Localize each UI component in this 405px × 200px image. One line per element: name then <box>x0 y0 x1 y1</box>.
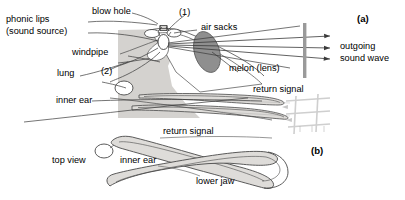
label-phonic-lips: phonic lips (sound source) <box>6 14 67 37</box>
label-return-signal-b: return signal <box>163 126 214 137</box>
label-outgoing-sound-wave: outgoing sound wave <box>340 41 389 64</box>
return-grid-vline-2 <box>316 94 318 132</box>
ray-arrowhead-2 <box>324 46 330 50</box>
inner-ear-circle-b <box>95 144 113 158</box>
return-arrowhead-1 <box>282 105 288 109</box>
label-marker-two: (2) <box>101 66 112 77</box>
echolocation-figure: phonic lips (sound source) blow hole (1)… <box>0 0 405 200</box>
return-grid-vline-1 <box>294 96 296 134</box>
label-panel-a: (a) <box>357 13 369 24</box>
label-lower-jaw: lower jaw <box>196 176 234 187</box>
label-lung: lung <box>57 68 74 79</box>
phonic-lips-sac <box>158 35 169 50</box>
lung-shape <box>115 81 133 95</box>
label-air-sacks: air sacks <box>201 22 237 33</box>
label-inner-ear-b: inner ear <box>120 155 156 166</box>
label-blow-hole: blow hole <box>92 6 131 17</box>
label-outgoing-line1: outgoing <box>340 41 389 53</box>
ray-arrowhead-1 <box>324 34 330 38</box>
label-marker-one: (1) <box>179 7 190 18</box>
label-return-signal-a: return signal <box>253 84 304 95</box>
label-inner-ear-a: inner ear <box>56 95 92 106</box>
label-top-view: top view <box>52 155 86 166</box>
air-sack-left <box>145 30 160 38</box>
leader-phonic-lips-1 <box>88 21 157 25</box>
label-outgoing-line2: sound wave <box>340 53 389 65</box>
label-melon: melon (lens) <box>229 63 280 74</box>
label-windpipe: windpipe <box>72 47 108 58</box>
ray-arrowhead-3 <box>324 56 330 60</box>
target-bar <box>303 23 306 78</box>
label-phonic-lips-line1: phonic lips <box>6 14 67 26</box>
return-grid-hline-1 <box>286 98 330 101</box>
return-grid-hline-2 <box>286 111 330 114</box>
label-phonic-lips-line2: (sound source) <box>6 26 67 38</box>
label-panel-b: (b) <box>311 145 323 156</box>
return-signal-grid-b <box>300 126 324 132</box>
